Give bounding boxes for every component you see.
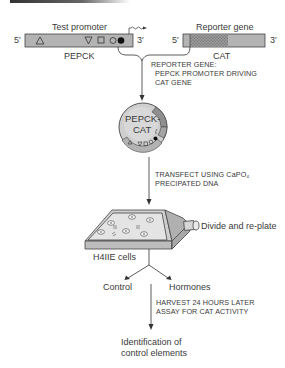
arrow-head-control: [125, 276, 131, 281]
test-promoter-label: Test promoter: [52, 23, 107, 32]
plasmid-label-line2: CAT: [133, 125, 151, 135]
culture-dish: [85, 210, 199, 249]
control-branch-label: Control: [103, 283, 132, 292]
h4iie-cells-label: H4IIE cells: [93, 253, 136, 262]
arrow-to-dish: [147, 157, 152, 205]
reporter-gene-label: Reporter gene: [196, 23, 254, 32]
arrow-to-plasmid: [140, 82, 145, 101]
step3-caption-line2: ASSAY FOR CAT ACTIVITY: [156, 307, 248, 316]
arrow-head-hormones: [166, 276, 172, 281]
pepck-gene-label: PEPCK: [64, 52, 95, 61]
step1-caption-line3: CAT GENE: [155, 78, 192, 87]
hormones-branch-label: Hormones: [169, 283, 211, 292]
result-line1: Identification of: [121, 338, 182, 347]
arrow-to-result: [149, 284, 154, 330]
pepck-promoter-bar: [25, 34, 133, 47]
promoter-5prime-label: 5′: [14, 36, 21, 45]
reporter-5prime-label: 5′: [172, 36, 179, 45]
cat-reporter-bar: [183, 34, 265, 47]
transcription-start-arrow-icon: [129, 27, 147, 35]
step2-caption-line2: PRECIPATED DNA: [155, 179, 218, 188]
step1-caption-line1: REPORTER GENE:: [151, 60, 217, 69]
promoter-3prime-label: 3′: [137, 36, 144, 45]
filled-circle-element-icon: [118, 37, 125, 44]
result-line2: control elements: [121, 349, 187, 358]
step1-caption-line2: PEPCK PROMOTER DRIVING: [155, 69, 257, 78]
plasmid-label-line1: PEPCK-: [125, 114, 160, 124]
step2-caption-line1: TRANSFECT USING CaPO₄: [155, 170, 249, 179]
step3-caption-line1: HARVEST 24 HOURS LATER: [156, 298, 254, 307]
divide-replate-label: Divide and re-plate: [201, 222, 277, 231]
reporter-3prime-label: 3′: [270, 36, 277, 45]
